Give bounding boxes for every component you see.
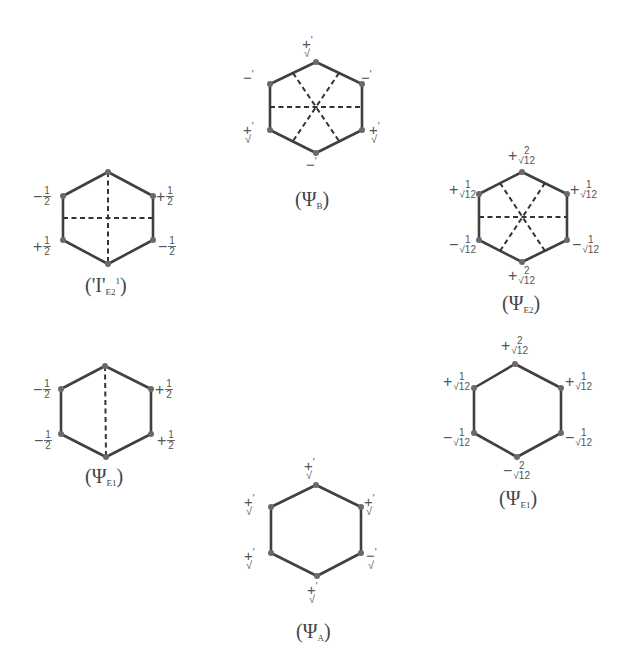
caption-psi-b: (ΨB) [295,188,329,211]
coef-psi-b-bottom: −' [306,157,317,172]
hexagon-psi-a [271,485,361,576]
coef-psi-e1r-upper-right: +1√12 [565,372,592,392]
coef-psi-e1r-lower-left: −1√12 [443,428,470,448]
caption-psi-a: (ΨA) [296,620,331,643]
coef-psi-e1r-bottom: −2√12 [503,461,530,481]
coef-psi-e2-upper-left: +1√12 [449,180,476,200]
caption-psi-e1-left: (ΨE1) [85,465,123,488]
coef-psi-e2p-upper-right: +12 [156,186,174,207]
coef-psi-e2p-lower-left: +12 [33,236,51,257]
coef-psi-e1l-upper-left: −12 [33,379,51,400]
caption-psi-e1-right: (ΨE1) [499,487,537,510]
coef-psi-e1l-lower-right: +12 [157,430,175,451]
coef-psi-a-upper-right: +'√ [364,494,375,509]
coef-psi-a-bottom: +'√ [307,582,318,597]
coef-psi-e2-lower-right: −1√12 [572,235,599,255]
coef-psi-e1r-top: +2√12 [501,336,528,356]
coef-psi-a-lower-right: −'√ [366,548,377,563]
coef-psi-e1l-lower-left: −12 [34,430,52,451]
coef-psi-e1l-upper-right: +12 [155,379,173,400]
coef-psi-b-lower-right: +'√ [369,122,380,137]
coef-psi-e2-lower-left: −1√12 [449,235,476,255]
coef-psi-e2-bottom: +2√12 [508,266,535,286]
coef-psi-e2p-lower-right: −12 [158,236,176,257]
coef-psi-a-lower-left: +'√ [244,548,255,563]
caption-psi-e2: (ΨE2) [502,292,540,315]
coef-psi-e1r-lower-right: −1√12 [565,428,592,448]
coef-psi-e2-top: +2√12 [508,146,535,166]
coef-psi-e2p-upper-left: −12 [33,186,51,207]
coef-psi-b-top: +'√ [302,36,313,51]
coef-psi-e1r-upper-left: +1√12 [443,372,470,392]
coef-psi-b-upper-right: −' [361,70,372,85]
coef-psi-a-top: +'√ [304,458,315,473]
hexagon-psi-e1-right [474,364,561,457]
coef-psi-b-lower-left: +'√ [243,122,254,137]
coef-psi-e2-upper-right: +1√12 [570,180,597,200]
caption-psi-e2-prime: ('Ι'E21) [85,274,127,297]
hexagon-diagrams [0,0,626,661]
nodal-line [105,366,106,457]
coef-psi-b-upper-left: −' [243,70,254,85]
coef-psi-a-upper-left: +'√ [244,494,255,509]
